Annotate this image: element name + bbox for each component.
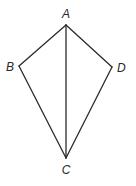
vertex-label-b: B — [6, 60, 14, 74]
kite-diagram: A B C D — [0, 0, 136, 186]
edge-ab — [19, 25, 66, 66]
edge-da — [66, 25, 112, 67]
edge-bc — [19, 66, 66, 158]
vertex-label-d: D — [117, 61, 126, 75]
vertex-label-c: C — [62, 163, 71, 177]
edges — [19, 25, 112, 158]
vertex-label-a: A — [61, 7, 70, 21]
edge-cd — [66, 67, 112, 158]
